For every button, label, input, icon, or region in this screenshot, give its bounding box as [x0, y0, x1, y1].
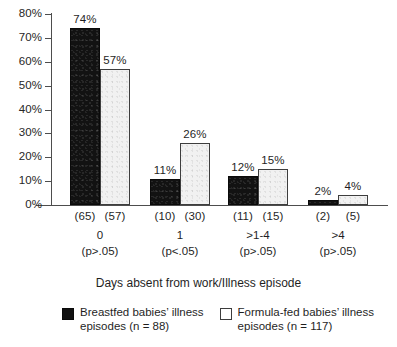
y-axis-tick-label: 60%: [0, 55, 42, 67]
bar-count-label: (15): [251, 210, 295, 222]
legend-item: Formula-fed babies’ illness episodes (n …: [220, 306, 374, 333]
y-axis-tick-label-text: 70%: [0, 31, 42, 43]
legend-item: Breastfed babies’ illness episodes (n = …: [62, 306, 204, 333]
y-axis-tick: [45, 38, 52, 39]
x-axis-category-label: >4: [298, 229, 378, 241]
y-axis-tick: [45, 205, 52, 206]
y-axis-tick-label-text: 60%: [0, 55, 42, 67]
bar-chart: 0%10%20%30%40%50%60%70%80% 74%57%11%26%1…: [0, 0, 397, 347]
y-axis-tick-label: 40%: [0, 103, 42, 115]
y-axis-tick-label-text: 80%: [0, 7, 42, 19]
y-axis-tick-label-text: 0%: [0, 198, 42, 210]
bar: [150, 179, 180, 205]
y-axis-tick: [45, 157, 52, 158]
y-axis-tick: [45, 181, 52, 182]
bar-value-label: 15%: [252, 154, 294, 166]
x-axis-significance-label: (p>.05): [55, 245, 145, 257]
y-axis-tick-label: 0%: [0, 198, 42, 210]
bar-value-label: 57%: [94, 54, 136, 66]
y-axis-tick-label: 80%: [0, 7, 42, 19]
plot-area: 74%57%11%26%12%15%2%4%: [52, 14, 388, 205]
bar-count-label: (30): [173, 210, 217, 222]
bar: [228, 176, 258, 205]
bar-value-label: 26%: [174, 128, 216, 140]
x-axis-category-label: 1: [140, 229, 220, 241]
y-axis-tick: [45, 86, 52, 87]
y-axis-tick: [45, 62, 52, 63]
chart-legend: Breastfed babies’ illness episodes (n = …: [62, 306, 382, 333]
bar-value-label: 74%: [64, 13, 106, 25]
y-axis-tick-label: 70%: [0, 31, 42, 43]
y-axis-tick-label: 50%: [0, 79, 42, 91]
x-axis-significance-label: (p<.05): [135, 245, 225, 257]
y-axis-tick-label: 10%: [0, 174, 42, 186]
x-axis-category-label: 0: [60, 229, 140, 241]
y-axis-tick: [45, 133, 52, 134]
x-axis-category-label: >1-4: [218, 229, 298, 241]
y-axis-tick-label-text: 10%: [0, 174, 42, 186]
x-axis-significance-label: (p>.05): [213, 245, 303, 257]
bar: [258, 169, 288, 205]
y-axis-tick-label: 20%: [0, 150, 42, 162]
y-axis-tick-label-text: 30%: [0, 126, 42, 138]
y-axis-tick-label-text: 40%: [0, 103, 42, 115]
bar: [338, 195, 368, 205]
x-axis-significance-label: (p>.05): [293, 245, 383, 257]
y-axis-tick: [45, 110, 52, 111]
y-axis-tick-label: 30%: [0, 126, 42, 138]
y-axis-tick-label-text: 50%: [0, 79, 42, 91]
bar-count-label: (57): [93, 210, 137, 222]
x-axis-line: [36, 205, 388, 206]
bar: [308, 200, 338, 205]
bar-value-label: 4%: [332, 180, 374, 192]
legend-swatch-dark: [62, 308, 74, 320]
bar: [180, 143, 210, 205]
legend-swatch-light: [220, 308, 232, 320]
y-axis-tick-label-text: 20%: [0, 150, 42, 162]
legend-label: Formula-fed babies’ illness episodes (n …: [238, 306, 374, 333]
y-axis-tick: [45, 14, 52, 15]
bar-count-label: (5): [331, 210, 375, 222]
legend-label: Breastfed babies’ illness episodes (n = …: [80, 306, 204, 333]
x-axis-title: Days absent from work/Illness episode: [0, 276, 397, 290]
bar: [100, 69, 130, 205]
